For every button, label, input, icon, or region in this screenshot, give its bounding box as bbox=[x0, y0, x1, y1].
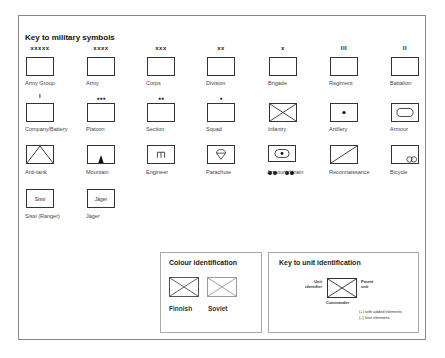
size-marker: xxxxx bbox=[25, 45, 55, 51]
symbol-label: Corps bbox=[146, 80, 161, 86]
symbol-battalion: II Battalion bbox=[390, 45, 445, 85]
symbol-label: Squad bbox=[206, 126, 222, 132]
symbol-army-group: xxxxx Army Group bbox=[25, 45, 85, 85]
box-text: Jäger bbox=[88, 190, 114, 207]
symbol-label: Jäger bbox=[86, 213, 100, 219]
soviet-label: Soviet bbox=[208, 305, 228, 312]
unit-identifier-line2: identifier bbox=[305, 284, 322, 289]
size-marker: x bbox=[268, 45, 298, 51]
symbol-mountain: Mountain bbox=[86, 145, 146, 185]
legend-title: Key to military symbols bbox=[25, 33, 115, 42]
artillery-dot-icon bbox=[330, 103, 358, 122]
symbol-engineer: Engineer bbox=[146, 145, 206, 185]
symbol-label: Reconnaissance bbox=[329, 169, 370, 175]
symbol-regiment: III Regiment bbox=[329, 45, 389, 85]
size-marker: II bbox=[390, 45, 420, 51]
size-marker: I bbox=[25, 93, 55, 99]
added-elements-note: (+) with added elements bbox=[359, 309, 402, 314]
symbol-label: Mountain bbox=[86, 169, 109, 175]
size-marker: xxxx bbox=[86, 45, 116, 51]
armoured-train-icon bbox=[268, 145, 296, 162]
infantry-cross-icon bbox=[269, 103, 297, 122]
symbol-label: Division bbox=[206, 80, 225, 86]
finnish-colour-swatch bbox=[169, 277, 199, 297]
symbol-armoured-train: Armoured train bbox=[267, 145, 327, 185]
parachute-icon bbox=[207, 145, 235, 164]
size-marker: ● bbox=[206, 95, 236, 101]
symbol-label: Company/Battery bbox=[25, 126, 68, 132]
unit-box bbox=[26, 57, 54, 76]
train-wheels-icon bbox=[267, 162, 297, 168]
colour-identification-panel: Colour identification Finnish Soviet bbox=[160, 252, 262, 333]
unit-box bbox=[87, 57, 115, 76]
symbol-company-battery: I Company/Battery bbox=[25, 93, 85, 133]
symbol-label: Parachute bbox=[206, 169, 231, 175]
symbol-label: Battalion bbox=[390, 80, 411, 86]
symbol-squad: ● Squad bbox=[206, 93, 266, 133]
symbol-jager: Jäger Jäger bbox=[86, 189, 146, 229]
armour-oval-icon bbox=[391, 103, 419, 122]
symbol-label: Section bbox=[146, 126, 164, 132]
parent-unit-line2: unit bbox=[361, 284, 368, 289]
symbol-brigade: x Brigade bbox=[268, 45, 328, 85]
unit-example-box bbox=[327, 278, 357, 298]
symbol-anti-tank: Anti-tank bbox=[25, 145, 85, 185]
anti-tank-triangle-icon bbox=[26, 145, 54, 164]
jager-box: Jäger bbox=[87, 189, 115, 208]
size-marker: ●●● bbox=[86, 95, 116, 101]
symbol-label: Army bbox=[86, 80, 99, 86]
symbol-label: Infantry bbox=[268, 126, 286, 132]
symbol-corps: xxx Corps bbox=[146, 45, 206, 85]
sissi-box: Sissi bbox=[26, 189, 54, 208]
unit-identification-panel: Key to unit identification Unit identifi… bbox=[268, 252, 419, 333]
parent-unit-label: Parent unit bbox=[361, 279, 373, 289]
bicycle-icon bbox=[391, 145, 419, 164]
symbol-label: Anti-tank bbox=[25, 169, 47, 175]
unit-identification-title: Key to unit identification bbox=[279, 259, 361, 266]
symbol-label: Sissi (Ranger) bbox=[25, 213, 60, 219]
unit-box bbox=[207, 103, 235, 122]
soviet-colour-swatch bbox=[207, 277, 237, 297]
symbol-label: Regiment bbox=[329, 80, 353, 86]
unit-box bbox=[207, 57, 235, 76]
unit-identifier-label: Unit identifier bbox=[302, 279, 322, 289]
unit-box bbox=[87, 103, 115, 122]
box-text: Sissi bbox=[27, 190, 53, 207]
symbol-division: xx Division bbox=[206, 45, 266, 85]
symbol-infantry: Infantry bbox=[268, 93, 328, 133]
engineer-icon bbox=[147, 145, 175, 164]
symbol-label: Armoured train bbox=[267, 169, 303, 175]
symbol-parachute: Parachute bbox=[206, 145, 266, 185]
symbol-sissi-ranger: Sissi Sissi (Ranger) bbox=[25, 189, 85, 229]
symbol-label: Brigade bbox=[268, 80, 287, 86]
symbol-reconnaissance: Reconnaissance bbox=[329, 145, 389, 185]
symbol-bicycle: Bicycle bbox=[390, 145, 445, 185]
reconnaissance-diagonal-icon bbox=[330, 145, 358, 164]
symbol-label: Army Group bbox=[25, 80, 55, 86]
symbol-platoon: ●●● Platoon bbox=[86, 93, 146, 133]
size-marker: ●● bbox=[146, 95, 176, 101]
symbol-label: Bicycle bbox=[390, 169, 407, 175]
commander-label: Commander bbox=[326, 300, 349, 305]
symbol-artillery: Artillery bbox=[329, 93, 389, 133]
size-marker: III bbox=[329, 45, 359, 51]
unit-box bbox=[26, 103, 54, 122]
unit-box bbox=[147, 57, 175, 76]
unit-box bbox=[330, 57, 358, 76]
size-marker: xxx bbox=[146, 45, 176, 51]
colour-identification-title: Colour identification bbox=[169, 259, 237, 266]
symbol-label: Artillery bbox=[329, 126, 347, 132]
symbol-armour: Armour bbox=[390, 93, 445, 133]
size-marker: xx bbox=[206, 45, 236, 51]
unit-box bbox=[147, 103, 175, 122]
unit-box bbox=[269, 57, 297, 76]
symbol-label: Engineer bbox=[146, 169, 168, 175]
unit-box bbox=[391, 57, 419, 76]
symbol-section: ●● Section bbox=[146, 93, 206, 133]
symbol-label: Armour bbox=[390, 126, 408, 132]
mountain-icon bbox=[87, 145, 115, 164]
symbol-label: Platoon bbox=[86, 126, 105, 132]
symbol-army: xxxx Army bbox=[86, 45, 146, 85]
finnish-label: Finnish bbox=[169, 305, 192, 312]
less-elements-note: (–) less elements bbox=[359, 315, 389, 320]
